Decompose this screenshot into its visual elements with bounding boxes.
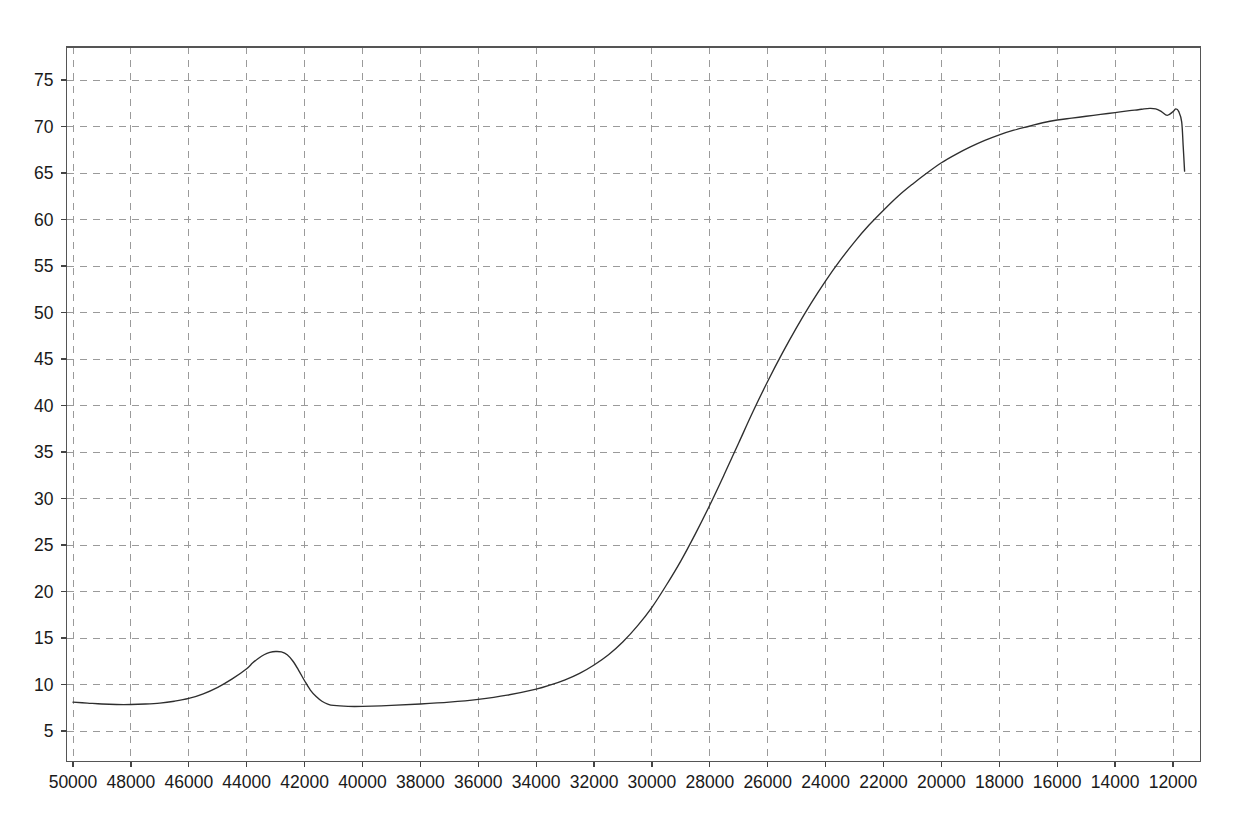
y-tick-label: 70 [34, 117, 54, 137]
vertical-gridlines [73, 47, 1173, 762]
x-tick-label: 24000 [801, 772, 850, 792]
y-tick-label: 45 [34, 349, 53, 369]
x-tick-label: 46000 [164, 772, 213, 792]
y-tick-label: 20 [34, 582, 54, 602]
y-tick-label: 65 [34, 163, 53, 183]
x-tick-label: 48000 [107, 772, 156, 792]
x-tick-label: 12000 [1149, 772, 1198, 792]
y-axis-tick-marks [61, 80, 67, 731]
x-tick-label: 18000 [975, 772, 1024, 792]
y-tick-label: 50 [34, 303, 54, 323]
x-tick-label: 42000 [280, 772, 329, 792]
x-tick-label: 30000 [628, 772, 677, 792]
x-tick-label: 20000 [917, 772, 966, 792]
x-axis-tick-labels: 5000048000460004400042000400003800036000… [49, 772, 1198, 792]
y-tick-label: 40 [34, 396, 54, 416]
x-tick-label: 34000 [512, 772, 561, 792]
y-tick-label: 10 [34, 675, 54, 695]
data-series-spectrum [73, 108, 1185, 706]
y-tick-label: 35 [34, 442, 53, 462]
x-tick-label: 28000 [686, 772, 735, 792]
line-chart: 5000048000460004400042000400003800036000… [0, 0, 1243, 827]
x-tick-label: 40000 [338, 772, 387, 792]
x-tick-label: 26000 [743, 772, 792, 792]
chart-container: 5000048000460004400042000400003800036000… [0, 0, 1243, 827]
horizontal-gridlines [67, 80, 1201, 731]
y-tick-label: 55 [34, 256, 53, 276]
x-tick-label: 50000 [49, 772, 98, 792]
y-tick-label: 15 [34, 628, 53, 648]
y-tick-label: 5 [44, 721, 54, 741]
x-tick-label: 32000 [570, 772, 619, 792]
x-tick-label: 36000 [454, 772, 503, 792]
y-tick-label: 60 [34, 210, 54, 230]
y-axis-tick-labels: 51015202530354045505560657075 [34, 70, 54, 741]
x-tick-label: 14000 [1091, 772, 1140, 792]
y-tick-label: 30 [34, 489, 54, 509]
y-tick-label: 75 [34, 70, 53, 90]
x-tick-label: 38000 [396, 772, 445, 792]
y-tick-label: 25 [34, 535, 53, 555]
x-tick-label: 16000 [1033, 772, 1082, 792]
plot-frame [67, 47, 1201, 762]
x-axis-tick-marks [73, 762, 1173, 767]
x-tick-label: 22000 [859, 772, 908, 792]
x-tick-label: 44000 [222, 772, 271, 792]
